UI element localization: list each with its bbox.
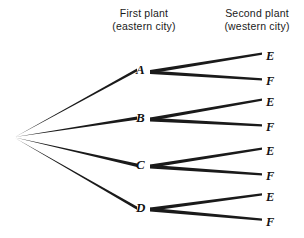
stage1-branches — [15, 68, 137, 209]
branch-root-to-d — [15, 138, 137, 210]
leaf-label-c-f: F — [266, 170, 274, 183]
branch-d-to-e — [150, 193, 262, 211]
node-label-b: B — [136, 111, 145, 124]
branch-root-to-c — [15, 138, 137, 167]
branch-d-to-f — [150, 208, 262, 221]
branch-a-to-f — [150, 70, 262, 80]
tree-diagram-canvas — [0, 0, 304, 238]
leaf-label-a-f: F — [266, 75, 274, 88]
leaf-label-a-e: E — [266, 50, 274, 63]
column-header-second-plant: Second plant (western city) — [210, 7, 304, 32]
leaf-label-d-f: F — [266, 216, 274, 229]
leaf-label-b-f: F — [266, 121, 274, 134]
leaf-label-b-e: E — [266, 96, 274, 109]
header-first-line2: (eastern city) — [94, 20, 194, 33]
branch-c-to-e — [150, 148, 262, 168]
node-label-c: C — [136, 158, 145, 171]
branch-root-to-a — [15, 68, 137, 137]
header-second-line1: Second plant — [210, 7, 304, 20]
node-label-d: D — [136, 201, 145, 214]
branch-b-to-f — [150, 118, 262, 127]
node-label-a: A — [136, 63, 145, 76]
branch-c-to-f — [150, 165, 262, 176]
header-second-line2: (western city) — [210, 20, 304, 33]
branch-a-to-e — [150, 53, 262, 74]
header-first-line1: First plant — [94, 7, 194, 20]
column-header-first-plant: First plant (eastern city) — [94, 7, 194, 32]
stage2-branches — [150, 53, 262, 221]
leaf-label-d-e: E — [266, 191, 274, 204]
branch-b-to-e — [150, 99, 262, 121]
leaf-label-c-e: E — [266, 145, 274, 158]
